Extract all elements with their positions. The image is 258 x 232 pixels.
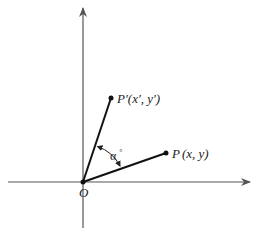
segment-op — [83, 153, 166, 182]
segment-op-prime — [83, 98, 111, 182]
angle-label: α° — [110, 148, 123, 163]
point-origin — [81, 180, 86, 185]
angle-arc — [98, 147, 121, 167]
origin-label: O — [79, 185, 89, 200]
point-p-label: P(x, y) — [171, 146, 209, 161]
rotation-diagram: O P(x, y) P′(x′, y′) α° — [0, 0, 258, 232]
point-p-prime-label: P′(x′, y′) — [116, 91, 160, 106]
point-p-prime — [109, 96, 114, 101]
point-p — [164, 151, 169, 156]
